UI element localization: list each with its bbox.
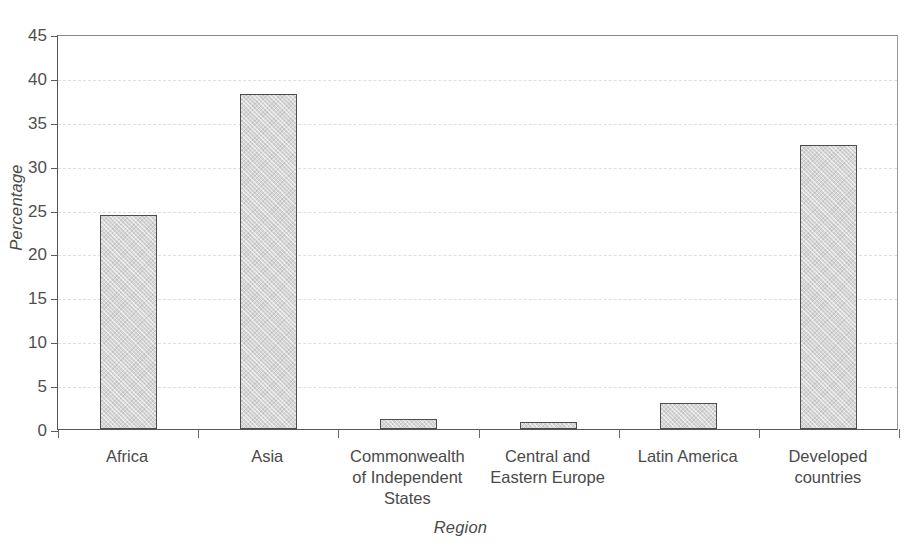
bar — [240, 94, 297, 429]
y-tick-mark — [51, 168, 58, 169]
x-axis-category-label: Central and Eastern Europe — [478, 446, 618, 488]
y-tick-label: 40 — [28, 70, 47, 90]
x-axis-category-label: Africa — [57, 446, 197, 467]
y-tick-mark — [51, 80, 58, 81]
x-tick-mark — [198, 429, 199, 438]
bar — [660, 403, 717, 429]
x-tick-mark — [619, 429, 620, 438]
plot-area: 051015202530354045 — [57, 35, 898, 430]
gridline — [58, 168, 897, 169]
y-tick-mark — [51, 124, 58, 125]
y-tick-label: 10 — [28, 333, 47, 353]
gridline — [58, 299, 897, 300]
y-tick-mark — [51, 212, 58, 213]
x-axis-category-label: Commonwealth of Independent States — [337, 446, 477, 509]
gridline — [58, 212, 897, 213]
bar — [800, 145, 857, 429]
gridline — [58, 255, 897, 256]
y-tick-label: 30 — [28, 158, 47, 178]
y-tick-label: 35 — [28, 114, 47, 134]
bar — [380, 419, 437, 429]
y-tick-mark — [51, 431, 58, 432]
x-tick-mark — [899, 429, 900, 438]
x-axis-category-label: Asia — [197, 446, 337, 467]
gridline — [58, 343, 897, 344]
y-tick-label: 0 — [38, 421, 47, 441]
y-axis-title: Percentage — [7, 148, 26, 268]
x-axis-category-label: Developed countries — [758, 446, 898, 488]
y-tick-label: 20 — [28, 245, 47, 265]
y-tick-mark — [51, 343, 58, 344]
y-tick-label: 45 — [28, 26, 47, 46]
x-tick-mark — [338, 429, 339, 438]
y-tick-mark — [51, 36, 58, 37]
bar — [520, 422, 577, 429]
x-tick-mark — [479, 429, 480, 438]
gridline — [58, 80, 897, 81]
y-tick-mark — [51, 255, 58, 256]
y-tick-label: 5 — [38, 377, 47, 397]
y-tick-label: 25 — [28, 202, 47, 222]
bar — [100, 215, 157, 429]
y-tick-mark — [51, 299, 58, 300]
x-tick-mark — [759, 429, 760, 438]
bar-chart: Percentage 051015202530354045 AfricaAsia… — [0, 0, 921, 553]
y-tick-label: 15 — [28, 289, 47, 309]
gridline — [58, 124, 897, 125]
gridline — [58, 387, 897, 388]
x-axis-category-label: Latin America — [618, 446, 758, 467]
x-tick-mark — [58, 429, 59, 438]
x-axis-title: Region — [0, 518, 921, 537]
y-tick-mark — [51, 387, 58, 388]
